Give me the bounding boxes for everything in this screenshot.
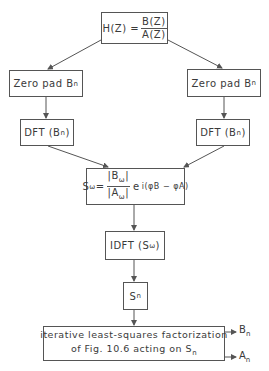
zero-pad-right-box: Zero pad Bn: [187, 69, 261, 97]
spectrum-eq: =: [96, 181, 105, 192]
den-a: |A: [108, 187, 119, 198]
factorization-line2-wrap: of Fig. 10.6 acting on Sn: [71, 342, 197, 360]
idft-pre: IDFT (S: [110, 240, 149, 251]
zero-pad-left-box: Zero pad Bn: [9, 70, 83, 97]
transfer-fn-numerator: B(Z): [141, 16, 167, 29]
den-post: |: [125, 187, 129, 198]
dft-right-pre: DFT (B: [200, 127, 236, 138]
idft-post: ): [156, 240, 160, 251]
transfer-function-box: H(Z) = B(Z) A(Z): [101, 12, 168, 44]
output-an-label: A: [239, 350, 246, 361]
transfer-fn-lhs: H(Z) =: [102, 23, 139, 34]
dft-left-pre: DFT (B: [24, 127, 60, 138]
sn-label: S: [130, 291, 137, 302]
factorization-line1: iterative least-squares factorization: [40, 328, 228, 342]
magnitude-ratio: |Bω| |Aω|: [107, 170, 130, 203]
zero-pad-right-label: Zero pad B: [192, 78, 252, 89]
num-post: |: [125, 170, 129, 181]
spectrum-lhs: S: [82, 181, 89, 192]
factorization-line2-sub: n: [192, 349, 197, 357]
transfer-fn-fraction: B(Z) A(Z): [141, 16, 167, 41]
spectrum-box: Sω= |Bω| |Aω| ei(φB − φA): [86, 168, 185, 205]
magnitude-numerator: |Bω|: [107, 170, 130, 187]
phase-exponent: i(φB − φA): [142, 182, 189, 191]
output-bn-label: B: [239, 324, 246, 335]
magnitude-denominator: |Aω|: [107, 187, 130, 203]
output-bn: Bn: [239, 324, 250, 338]
output-an-sub: n: [246, 356, 250, 364]
zero-pad-right-sub: n: [252, 79, 257, 87]
factorization-box: iterative least-squares factorization of…: [43, 326, 225, 361]
transfer-fn-denominator: A(Z): [141, 29, 167, 41]
output-an: An: [239, 350, 250, 364]
dft-right-box: DFT (Bn): [196, 119, 250, 146]
output-bn-sub: n: [246, 330, 250, 338]
zero-pad-left-label: Zero pad B: [14, 78, 74, 89]
dft-right-post: ): [241, 127, 245, 138]
exp-base: e: [133, 181, 140, 192]
sn-sub: n: [136, 292, 141, 300]
sn-box: Sn: [123, 282, 148, 310]
zero-pad-left-sub: n: [74, 80, 79, 88]
dft-left-box: DFT (Bn): [20, 119, 74, 146]
dft-left-post: ): [65, 127, 69, 138]
factorization-line2: of Fig. 10.6 acting on S: [71, 343, 192, 354]
num-b: |B: [108, 170, 119, 181]
idft-box: IDFT (Sω): [105, 231, 165, 260]
